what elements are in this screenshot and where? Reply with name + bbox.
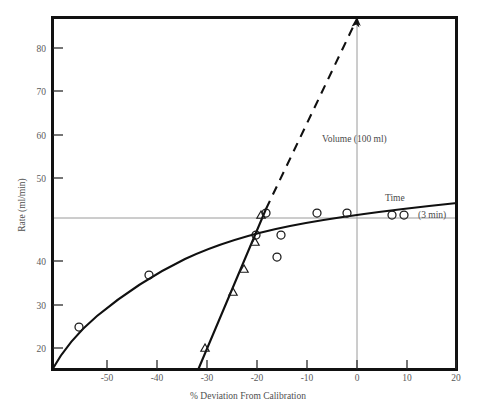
x-tick-label: -40 [151, 373, 164, 383]
y-tick-label: 50 [37, 174, 47, 184]
y-tick-label: 40 [37, 257, 47, 267]
y-tick-label: 30 [37, 301, 47, 311]
x-tick-label: -20 [251, 373, 264, 383]
y-axis-title: Rate (ml/min) [17, 178, 28, 232]
time-annotation-label: Time [385, 193, 405, 203]
x-tick-label: -30 [201, 373, 214, 383]
x-tick-label: 20 [451, 373, 461, 383]
volume-annotation-label: Volume (100 ml) [322, 134, 387, 145]
x-axis-title: % Deviation From Calibration [190, 391, 306, 401]
chart-svg: 80 70 60 50 40 30 20 -50 -40 -30 -20 -10… [0, 0, 477, 411]
y-axis-tick-labels: 80 70 60 50 40 30 20 [37, 44, 47, 354]
y-tick-label: 20 [37, 344, 47, 354]
x-tick-label: -50 [101, 373, 114, 383]
y-tick-label: 60 [37, 131, 47, 141]
x-tick-label: 0 [355, 373, 360, 383]
y-tick-label: 70 [37, 87, 47, 97]
x-axis-tick-labels: -50 -40 -30 -20 -10 0 10 20 [101, 373, 461, 383]
x-tick-label: 10 [402, 373, 412, 383]
x-tick-label: -10 [301, 373, 314, 383]
time-annotation-sublabel: (3 min) [418, 210, 446, 221]
chart-figure: 80 70 60 50 40 30 20 -50 -40 -30 -20 -10… [0, 0, 477, 411]
y-tick-label: 80 [37, 44, 47, 54]
